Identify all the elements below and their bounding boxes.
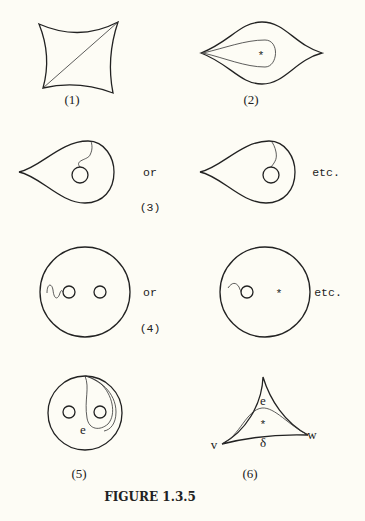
- figure-1-3-5: (1) * (2) or etc. (3) or * etc. (4): [0, 0, 365, 521]
- hole-right: [94, 286, 106, 298]
- puncture-star: *: [260, 418, 267, 431]
- vertex-w: w: [307, 427, 317, 442]
- teardrop-outline: [200, 141, 295, 203]
- hole-left: [63, 406, 75, 418]
- or-connector-4: or: [143, 286, 157, 299]
- panel-label-4: (4): [140, 322, 161, 335]
- panel-label-5: (5): [71, 466, 86, 481]
- figure-caption: FIGURE 1.3.5: [104, 490, 196, 504]
- teardrop-outline: [19, 141, 114, 203]
- panel-2: * (2): [201, 22, 322, 107]
- arc: [79, 141, 92, 167]
- hole-right: [94, 406, 106, 418]
- hole-left: [241, 286, 253, 298]
- panel-label-6: (6): [242, 466, 257, 481]
- vertex-v: v: [211, 437, 218, 452]
- label-delta: δ: [260, 435, 266, 450]
- puncture-star: *: [276, 287, 283, 300]
- wavy-arc: [47, 285, 63, 298]
- panel-label-2: (2): [243, 92, 258, 107]
- edge-label-e: e: [80, 422, 86, 437]
- outer-disk: [220, 247, 310, 337]
- etc-connector-4: etc.: [314, 286, 342, 299]
- panel-label-1: (1): [64, 92, 79, 107]
- panel-6: e * δ v w (6): [211, 377, 318, 481]
- etc-connector-3: etc.: [312, 166, 340, 179]
- arc: [228, 283, 241, 292]
- panel-label-3: (3): [140, 201, 161, 214]
- panel-3-right: [200, 141, 295, 203]
- panel-1: (1): [39, 22, 118, 107]
- arc: [271, 141, 276, 167]
- panel-3-left: [19, 141, 114, 203]
- inner-loop: [203, 40, 276, 67]
- or-connector-3: or: [143, 166, 157, 179]
- panel-4-right: *: [220, 247, 310, 337]
- small-disk: [72, 167, 88, 183]
- small-disk: [263, 167, 279, 183]
- label-e: e: [260, 393, 266, 408]
- outer-disk: [48, 376, 122, 450]
- panel-5: e (5): [48, 376, 122, 481]
- hole-left: [63, 286, 75, 298]
- panel-4-left: [40, 247, 130, 337]
- puncture-star: *: [258, 49, 265, 62]
